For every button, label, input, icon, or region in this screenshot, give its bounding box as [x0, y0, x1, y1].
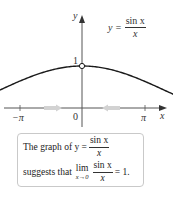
tick-label-pi: π — [141, 113, 146, 123]
curve-equation-denominator: x — [133, 28, 137, 39]
sinx-over-x-curve — [0, 66, 173, 114]
curve-equation-lhs: y = — [108, 22, 122, 33]
limit-operator: lim x→0 — [76, 164, 89, 181]
limit-note-box: The graph of y = sin x x suggests that l… — [17, 133, 144, 187]
approach-left-arrow-icon — [102, 105, 120, 112]
note-line-2: suggests that lim x→0 sin x x = 1. — [23, 161, 130, 183]
note-line1-numerator: sin x — [89, 136, 109, 148]
tick-label-neg-pi: −π — [12, 113, 24, 123]
note-line1-fraction: sin x x — [89, 136, 109, 158]
note-line2-denominator: x — [101, 173, 105, 184]
note-line1-denominator: x — [97, 148, 101, 159]
note-line-1: The graph of y = sin x x — [23, 136, 109, 158]
limit-subscript: x→0 — [76, 174, 89, 181]
curve-equation-label: y = sin x x — [108, 16, 146, 39]
limit-word: lim — [76, 164, 89, 174]
y-axis-label: y — [73, 11, 77, 21]
tick-label-one: 1 — [73, 56, 78, 66]
note-line2-fraction: sin x x — [93, 161, 113, 183]
hole-open-circle-icon — [79, 63, 84, 68]
tick-label-zero: 0 — [73, 112, 78, 122]
y-axis-arrow-icon — [79, 15, 85, 23]
curve-equation-numerator: sin x — [125, 16, 146, 28]
curve-equation-fraction: sin x x — [125, 16, 146, 39]
note-line2-result: = 1. — [115, 167, 130, 177]
note-line2-numerator: sin x — [93, 161, 113, 173]
approach-right-arrow-icon — [44, 105, 62, 112]
note-line2-text: suggests that — [23, 167, 72, 177]
x-axis-label: x — [160, 111, 164, 121]
note-line1-text: The graph of y = — [23, 142, 87, 152]
